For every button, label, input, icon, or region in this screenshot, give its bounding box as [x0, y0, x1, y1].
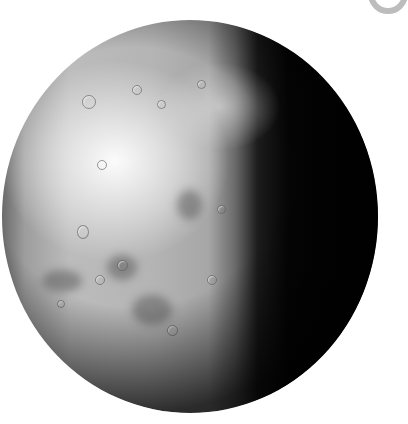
- moon-sphere: [2, 20, 378, 413]
- ring-fragment: [368, 0, 408, 14]
- terminator-shadow: [2, 20, 378, 413]
